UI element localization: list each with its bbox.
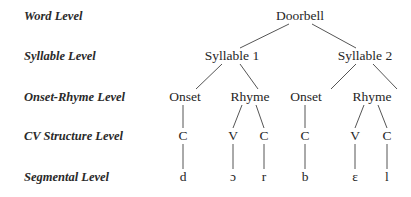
node-rhyme-2: Rhyme xyxy=(353,89,392,105)
edge-word-syllable2 xyxy=(312,24,356,48)
node-word: Doorbell xyxy=(276,8,324,24)
node-syllable-1: Syllable 1 xyxy=(205,48,259,64)
node-cv-rhyme1-c: C xyxy=(259,128,268,144)
edge-rhyme1-c xyxy=(256,105,264,128)
node-syllable-2: Syllable 2 xyxy=(338,48,392,64)
node-segment-d: d xyxy=(180,169,187,185)
node-cv-rhyme2-v: V xyxy=(350,128,360,144)
node-segment-l: l xyxy=(385,169,389,185)
node-cv-rhyme1-v: V xyxy=(228,128,238,144)
edge-rhyme2-v xyxy=(355,105,364,128)
node-segment-open-o: ɔ xyxy=(230,169,236,185)
edge-word-syllable1 xyxy=(240,24,289,48)
edge-syllable1-onset1 xyxy=(196,64,222,89)
edge-rhyme2-c xyxy=(378,105,387,128)
node-onset-2: Onset xyxy=(290,89,322,105)
node-cv-onset2-c: C xyxy=(300,128,309,144)
node-segment-b: b xyxy=(302,169,309,185)
edge-syllable1-rhyme1 xyxy=(240,64,258,89)
edge-syllable2-onset2 xyxy=(331,64,356,89)
node-segment-r: r xyxy=(262,169,267,185)
edge-syllable2-rhyme2 xyxy=(373,64,397,89)
node-segment-epsilon: ɛ xyxy=(352,169,358,185)
node-onset-1: Onset xyxy=(169,89,201,105)
node-rhyme-1: Rhyme xyxy=(231,89,270,105)
node-cv-rhyme2-c: C xyxy=(382,128,391,144)
edge-rhyme1-v xyxy=(233,105,242,128)
node-cv-onset1-c: C xyxy=(178,128,187,144)
tree-edges xyxy=(0,0,411,197)
